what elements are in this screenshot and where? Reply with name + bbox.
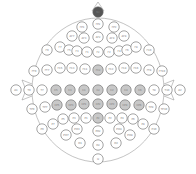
electrode-ft7: FT7 — [42, 65, 52, 75]
electrode-f8: F8 — [131, 42, 141, 52]
svg-text:POz: POz — [96, 130, 102, 133]
svg-text:CP5: CP5 — [54, 104, 59, 107]
svg-text:FT8: FT8 — [147, 69, 152, 72]
svg-text:F9: F9 — [45, 49, 48, 52]
electrode-p5: P5 — [58, 114, 68, 124]
svg-text:FC6: FC6 — [134, 67, 139, 70]
electrode-cp2: CP2 — [107, 99, 117, 109]
svg-text:A2: A2 — [178, 89, 182, 92]
electrode-cp1: CP1 — [79, 99, 89, 109]
svg-text:TP8: TP8 — [149, 106, 154, 109]
electrode-po3: PO3 — [72, 124, 82, 134]
svg-text:AFz: AFz — [96, 36, 101, 39]
svg-text:F2: F2 — [107, 51, 110, 54]
electrode-c4: C4 — [121, 85, 131, 95]
svg-text:P4: P4 — [120, 117, 124, 120]
svg-text:C3: C3 — [68, 89, 72, 92]
svg-text:F7: F7 — [58, 46, 61, 49]
svg-text:O1: O1 — [78, 142, 82, 145]
svg-text:P9: P9 — [40, 128, 44, 131]
svg-text:P5: P5 — [61, 118, 65, 121]
svg-text:FP2: FP2 — [112, 26, 117, 29]
electrode-tp7: TP7 — [40, 102, 50, 112]
svg-text:F6: F6 — [125, 49, 128, 52]
svg-text:FC2: FC2 — [109, 68, 114, 71]
svg-text:P8: P8 — [141, 123, 145, 126]
electrode-tp10: TP10 — [159, 104, 169, 114]
electrode-c1: C1 — [79, 85, 89, 95]
electrode-fc4: FC4 — [119, 63, 129, 73]
electrode-t9: T9 — [24, 85, 34, 95]
electrode-ft8: FT8 — [144, 65, 154, 75]
svg-text:T10: T10 — [165, 89, 170, 92]
svg-text:CP1: CP1 — [81, 103, 86, 106]
svg-text:F10: F10 — [147, 49, 152, 52]
svg-text:AF4: AF4 — [110, 37, 115, 40]
electrode-fp2: FP2 — [109, 22, 119, 32]
electrode-p6: P6 — [128, 114, 138, 124]
svg-text:CP4: CP4 — [122, 104, 127, 107]
svg-text:F5: F5 — [67, 49, 70, 52]
svg-text:T8: T8 — [152, 89, 156, 92]
svg-text:FPz: FPz — [96, 23, 101, 26]
svg-text:CP3: CP3 — [68, 104, 73, 107]
svg-text:C5: C5 — [54, 89, 58, 92]
electrode-t8: T8 — [149, 85, 159, 95]
svg-text:P6: P6 — [131, 118, 135, 121]
electrode-p3: P3 — [69, 113, 79, 123]
electrode-t10: T10 — [162, 85, 172, 95]
electrode-p10: P10 — [149, 124, 159, 134]
electrode-p7: P7 — [48, 119, 58, 129]
svg-text:C1: C1 — [82, 89, 86, 92]
svg-text:P7: P7 — [51, 123, 55, 126]
svg-text:PO4: PO4 — [116, 128, 122, 131]
svg-text:T7: T7 — [40, 89, 44, 92]
electrode-poz: POz — [93, 126, 103, 136]
electrode-cpz: CPz — [93, 99, 103, 109]
svg-text:F4: F4 — [117, 50, 120, 53]
svg-text:TP10: TP10 — [161, 108, 168, 111]
svg-text:P2: P2 — [108, 117, 112, 120]
svg-text:FCz: FCz — [96, 69, 101, 72]
electrode-c5: C5 — [51, 85, 61, 95]
svg-text:AF3: AF3 — [82, 37, 87, 40]
svg-text:C6: C6 — [138, 89, 142, 92]
electrode-af7: AF7 — [67, 31, 77, 41]
electrode-p9: P9 — [37, 124, 47, 134]
svg-text:CP2: CP2 — [109, 103, 114, 106]
svg-text:PO3: PO3 — [74, 128, 80, 131]
electrode-fc1: FC1 — [80, 64, 90, 74]
svg-text:TP7: TP7 — [43, 106, 48, 109]
svg-text:FC3: FC3 — [70, 67, 75, 70]
electrode-oz: Oz — [93, 140, 103, 150]
electrodes: NzFPzFP1FP2AF7AF3AFzAF4AF8F9F7F5F3F1FzF2… — [11, 7, 185, 164]
electrode-p2: P2 — [105, 113, 115, 123]
electrode-f2: F2 — [104, 47, 114, 57]
svg-text:TP9: TP9 — [30, 108, 35, 111]
svg-text:F3: F3 — [75, 50, 78, 53]
electrode-po4: PO4 — [114, 124, 124, 134]
electrode-fpz: FPz — [93, 19, 103, 29]
svg-text:F8: F8 — [134, 46, 137, 49]
electrode-cp3: CP3 — [66, 100, 76, 110]
svg-text:C4: C4 — [124, 89, 128, 92]
electrode-af8: AF8 — [119, 31, 129, 41]
electrode-p8: P8 — [138, 119, 148, 129]
svg-text:C2: C2 — [110, 89, 114, 92]
electrode-fc2: FC2 — [106, 64, 116, 74]
electrode-fz: Fz — [93, 47, 103, 57]
svg-text:FC4: FC4 — [122, 67, 127, 70]
svg-text:CP6: CP6 — [136, 104, 141, 107]
electrode-c2: C2 — [107, 85, 117, 95]
electrode-cp6: CP6 — [134, 100, 144, 110]
electrode-af3: AF3 — [79, 33, 89, 43]
electrode-o1: O1 — [75, 138, 85, 148]
svg-text:P10: P10 — [152, 128, 157, 131]
electrode-fcz: FCz — [93, 65, 103, 75]
svg-text:CPz: CPz — [96, 103, 101, 106]
electrode-a2: A2 — [175, 85, 185, 95]
electrode-o2: O2 — [111, 138, 121, 148]
electrode-p4: P4 — [117, 113, 127, 123]
svg-text:FT9: FT9 — [32, 70, 37, 73]
electrode-a1: A1 — [11, 85, 21, 95]
